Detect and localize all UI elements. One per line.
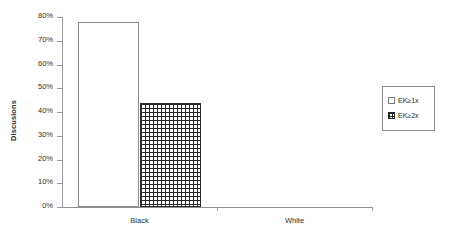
bar-chart: Discusions 0%10%20%30%40%50%60%70%80% Bl… xyxy=(0,0,450,236)
y-axis-tick: 20% xyxy=(57,160,62,161)
legend-item-label: EK≥2x xyxy=(398,112,419,119)
y-axis-tick-label: 50% xyxy=(38,82,53,91)
legend-swatch-crosshatch-square-icon xyxy=(388,112,395,119)
bar xyxy=(78,22,139,207)
y-axis-tick: 0% xyxy=(57,207,62,208)
y-axis-tick-label: 70% xyxy=(38,35,53,44)
y-axis-title-text: Discusions xyxy=(9,99,18,140)
legend: EK≥1x EK≥2x xyxy=(382,86,435,131)
y-axis-tick-label: 60% xyxy=(38,59,53,68)
legend-item-label: EK≥1x xyxy=(398,97,419,104)
x-axis-tick xyxy=(217,207,218,211)
y-axis-tick-label: 80% xyxy=(38,11,53,20)
y-axis-tick-label: 20% xyxy=(38,154,53,163)
y-axis-tick-label: 10% xyxy=(38,177,53,186)
y-axis-title: Discusions xyxy=(4,60,22,180)
y-axis-tick: 80% xyxy=(57,17,62,18)
y-axis-tick-label: 0% xyxy=(42,201,53,210)
x-axis-category-label: Black xyxy=(130,216,148,225)
plot-area: 0%10%20%30%40%50%60%70%80% BlackWhite xyxy=(62,17,372,207)
y-axis-tick: 50% xyxy=(57,88,62,89)
y-axis-line xyxy=(62,17,63,207)
y-axis-tick-label: 40% xyxy=(38,106,53,115)
y-axis-tick: 40% xyxy=(57,112,62,113)
legend-item: EK≥1x xyxy=(388,93,434,108)
y-axis-tick: 70% xyxy=(57,41,62,42)
y-axis-tick: 30% xyxy=(57,136,62,137)
y-axis-tick-label: 30% xyxy=(38,130,53,139)
x-axis-tick xyxy=(372,207,373,211)
legend-item: EK≥2x xyxy=(388,108,434,123)
bar xyxy=(140,103,201,208)
x-axis-category-label: White xyxy=(285,216,304,225)
y-axis-tick: 10% xyxy=(57,183,62,184)
legend-swatch-open-square-icon xyxy=(388,97,395,104)
y-axis-tick: 60% xyxy=(57,65,62,66)
